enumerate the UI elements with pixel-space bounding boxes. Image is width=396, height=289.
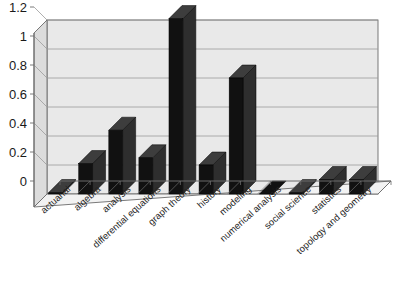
y-axis-label: 1 xyxy=(20,29,27,44)
bar-side xyxy=(243,65,256,194)
y-axis-label: 0.8 xyxy=(9,58,27,73)
y-axis-label: 0.6 xyxy=(9,87,27,102)
bar-side xyxy=(123,117,136,194)
bar-front[interactable] xyxy=(169,19,183,194)
plot-left-wall xyxy=(34,20,47,207)
y-axis-label: 1.2 xyxy=(9,0,27,15)
bar-front[interactable] xyxy=(229,78,243,194)
y-axis-label: 0.4 xyxy=(9,116,27,131)
bar-chart: 00.20.40.60.811.2actuarialalgebraanalysi… xyxy=(0,0,396,289)
y-axis-label: 0 xyxy=(20,174,27,189)
bar-side xyxy=(183,6,196,194)
bar-group xyxy=(109,117,136,194)
gridline-depth xyxy=(34,7,47,20)
bar-group xyxy=(229,65,256,194)
bar-group xyxy=(169,6,196,194)
y-axis-label: 0.2 xyxy=(9,145,27,160)
chart-canvas: 00.20.40.60.811.2actuarialalgebraanalysi… xyxy=(0,0,396,289)
